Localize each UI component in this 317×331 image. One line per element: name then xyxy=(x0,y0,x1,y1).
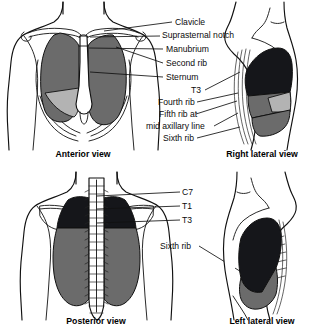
label-fourth-rib: Fourth rib xyxy=(158,97,195,107)
caption-left-lateral-view: Left lateral view xyxy=(229,316,294,326)
label-t3-anterior: T3 xyxy=(191,85,201,95)
label-c7: C7 xyxy=(182,187,193,197)
leader-sixth-rib-left xyxy=(199,246,243,273)
label-sixth-rib: Sixth rib xyxy=(163,133,194,143)
chest-landmarks-figure: Clavicle Suprasternal notch Manubrium Se… xyxy=(0,0,317,331)
right-lateral-chin-contour xyxy=(271,22,284,24)
posterior-lung-left-lower-gray xyxy=(53,228,89,306)
caption-anterior-view: Anterior view xyxy=(55,149,110,159)
leader-suprasternal-notch xyxy=(90,36,160,37)
label-sixth-rib-left: Sixth rib xyxy=(160,241,191,251)
label-sternum: Sternum xyxy=(166,72,198,82)
right-lateral-lung-upper-dark xyxy=(245,48,292,96)
panel-anterior-view xyxy=(7,2,160,150)
label-manubrium: Manubrium xyxy=(166,44,209,54)
left-lateral-chin-contour xyxy=(237,192,250,194)
label-t3-posterior: T3 xyxy=(182,215,192,225)
label-fifth-rib-at: Fifth rib at xyxy=(159,109,198,119)
leader-mid-axillary xyxy=(214,113,238,126)
posterior-lung-right-lower-gray xyxy=(104,228,140,306)
panel-left-lateral-view xyxy=(224,172,297,320)
posterior-vertebral-column xyxy=(85,178,108,320)
label-clavicle: Clavicle xyxy=(175,17,205,27)
panel-posterior-view xyxy=(20,172,173,320)
caption-posterior-view: Posterior view xyxy=(66,316,126,326)
label-t1: T1 xyxy=(182,201,192,211)
caption-right-lateral-view: Right lateral view xyxy=(226,149,298,159)
anterior-neck-outline xyxy=(63,2,104,14)
leader-fifth-rib xyxy=(196,101,237,114)
diagram-canvas: Clavicle Suprasternal notch Manubrium Se… xyxy=(0,0,317,331)
label-mid-axillary-line: mid axillary line xyxy=(146,121,205,131)
leader-fourth-rib xyxy=(197,93,238,102)
label-second-rib: Second rib xyxy=(166,58,207,68)
left-lateral-neck-contour xyxy=(251,178,269,208)
leader-c7 xyxy=(97,192,180,196)
left-lateral-front-outline xyxy=(224,172,238,320)
label-suprasternal-notch: Suprasternal notch xyxy=(162,30,234,40)
right-lateral-neck-contour xyxy=(252,8,270,38)
